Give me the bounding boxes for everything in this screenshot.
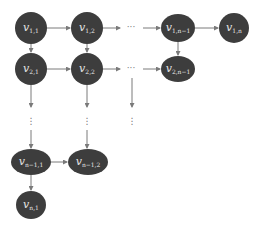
row1-ellipsis: ··· [127,22,136,32]
node-v22: v2,2 [71,53,103,85]
col1-ellipsis: ⋮ [27,116,36,126]
col2-ellipsis: ⋮ [83,116,92,126]
node-vn1: vn,1 [16,191,46,219]
grid-graph-diagram: ··· ··· ⋮ ⋮ ⋮ v1,1v1,2v1,n−1v1,nv2,1v2,2… [0,0,261,228]
col-mid-ellipsis: ⋮ [128,116,137,126]
node-v11: v1,1 [15,12,47,44]
node-v1n1: v1,n−1 [161,14,195,42]
row2-ellipsis: ··· [127,63,136,73]
node-vn12: vn−1,2 [68,149,108,175]
node-vn11: vn−1,1 [11,149,51,175]
node-v12: v1,2 [71,12,103,44]
edges [31,28,218,190]
node-v21: v2,1 [15,53,47,85]
node-v2n1: v2,n−1 [161,56,195,82]
node-v1n: v1,n [219,13,249,43]
